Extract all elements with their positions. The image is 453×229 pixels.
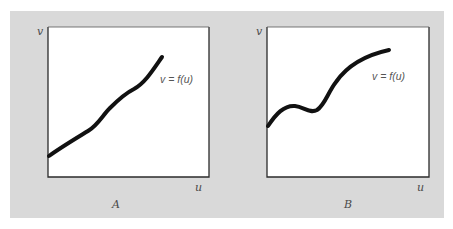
y-axis-label-a: v [37, 25, 44, 38]
plot-area-a [48, 27, 209, 177]
y-axis-label-b: v [256, 25, 263, 38]
caption-a: A [111, 198, 120, 211]
panel-b: v = f(u) v u B [256, 25, 429, 211]
plot-area-b [267, 27, 429, 177]
panel-a: v = f(u) v u A [37, 25, 209, 211]
function-plots-figure: v = f(u) v u A v = f(u) v u B [0, 0, 453, 229]
caption-b: B [343, 198, 352, 211]
x-axis-label-b: u [417, 181, 424, 194]
curve-label-b: v = f(u) [372, 70, 405, 82]
x-axis-label-a: u [195, 181, 202, 194]
curve-label-a: v = f(u) [160, 73, 193, 85]
